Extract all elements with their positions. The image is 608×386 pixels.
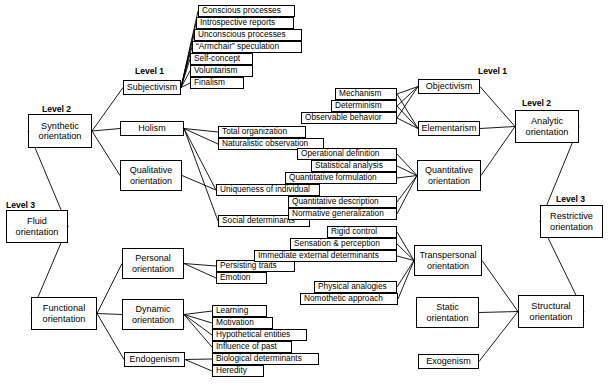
level-label-lvl-right-3: Level 3 [556,194,585,204]
node-exogenism[interactable]: Exogenism [418,354,479,369]
level-label-lvl-right-2: Level 2 [522,98,551,108]
node-functional-orientation[interactable]: Functionalorientation [31,297,97,330]
node-finalism[interactable]: Finalism [190,77,244,89]
edge-functional-orientation-to-endogenism [97,314,124,360]
edge-synthetic-orientation-to-qualitative-orientation [92,131,120,176]
edge-determinism-to-objectivism [397,87,418,107]
node-influence-of-past[interactable]: Influence of past [212,341,292,353]
node-emotion[interactable]: Emotion [216,272,267,284]
edge-nomothetic-approach-to-transpersonal-orientation [398,261,414,300]
edge-static-orientation-to-structural-orientation [479,312,518,313]
node-subjectivism[interactable]: Subjectivism [123,80,181,95]
edge-dynamic-orientation-to-influence-of-past [184,315,212,348]
edge-quantitative-formulation-to-quantitative-orientation [397,176,417,179]
node-heredity[interactable]: Heredity [212,365,264,377]
node-hypothetical-entities[interactable]: Hypothetical entities [212,329,307,341]
node-learning[interactable]: Learning [212,305,267,317]
edge-holism-to-social-determinants [184,129,218,222]
node-holism[interactable]: Holism [120,121,184,136]
node-structural-orientation[interactable]: Structuralorientation [518,295,584,328]
node-transpersonal-orientation[interactable]: Transpersonalorientation [414,245,482,276]
node-restrictive-orientation[interactable]: Restrictiveorientation [540,205,603,238]
edge-transpersonal-orientation-to-structural-orientation [482,261,518,312]
node-statistical-analysis[interactable]: Statistical analysis [311,160,397,172]
node-observable-behavior[interactable]: Observable behavior [301,112,397,124]
edge-normative-generalization-to-quantitative-orientation [397,176,417,215]
level-label-lvl-left-3: Level 3 [6,200,35,210]
node-personal-orientation[interactable]: Personalorientation [122,248,184,279]
node-rigid-control[interactable]: Rigid control [327,226,397,238]
node-quantitative-orientation[interactable]: Quantitativeorientation [417,160,481,191]
edge-quantitative-orientation-to-analytic-orientation [481,127,515,176]
node-quantitative-formulation[interactable]: Quantitative formulation [285,172,397,184]
node-objectivism[interactable]: Objectivism [418,79,480,94]
node-quantitative-description[interactable]: Quantitative description [288,196,397,208]
edge-physical-analogies-to-transpersonal-orientation [397,261,414,288]
node-static-orientation[interactable]: Staticorientation [416,297,479,328]
node-qualitative-orientation[interactable]: Qualitativeorientation [120,160,182,191]
edge-exogenism-to-structural-orientation [479,312,518,362]
node-introspective-reports[interactable]: Introspective reports [196,17,294,29]
node-self-concept[interactable]: Self-concept [190,53,253,65]
diagram-canvas: SyntheticorientationFluidorientationFunc… [0,0,608,386]
edge-objectivism-to-analytic-orientation [480,87,515,127]
node-analytic-orientation[interactable]: Analyticorientation [515,110,579,143]
level-label-lvl-left-1: Level 1 [135,66,164,76]
edge-holism-to-total-organization [184,129,218,133]
node-sensation-perception[interactable]: Sensation & perception [290,238,397,250]
node-immediate-external-determinants[interactable]: Immediate external determinants [254,250,397,262]
node-synthetic-orientation[interactable]: Syntheticorientation [28,114,92,148]
edge-synthetic-orientation-to-subjectivism [92,88,123,132]
node-biological-determinants[interactable]: Biological determinants [212,353,319,365]
node-conscious-processes[interactable]: Conscious processes [198,5,295,17]
edge-elementarism-to-analytic-orientation [480,127,515,129]
node-physical-analogies[interactable]: Physical analogies [314,281,397,293]
node-motivation[interactable]: Motivation [212,317,273,329]
edge-functional-orientation-to-personal-orientation [97,264,122,314]
node-uniqueness-of-individual[interactable]: Uniqueness of individual [216,184,320,196]
edge-determinism-to-elementarism [397,106,418,129]
node-dynamic-orientation[interactable]: Dynamicorientation [122,299,184,330]
edge-synthetic-orientation-to-holism [92,129,120,132]
edge-mechanism-to-objectivism [397,87,418,95]
node-endogenism[interactable]: Endogenism [124,352,185,367]
node-total-organization[interactable]: Total organization [218,126,306,138]
level-label-lvl-right-1: Level 1 [478,66,507,76]
node-mechanism[interactable]: Mechanism [335,88,397,100]
node-voluntarism[interactable]: Voluntarism [190,65,253,77]
edge-endogenism-to-heredity [185,360,212,372]
node-normative-generalization[interactable]: Normative generalization [288,208,397,220]
edge-dynamic-orientation-to-hypothetical-entities [184,315,212,336]
level-label-lvl-left-2: Level 2 [42,104,71,114]
edge-endogenism-to-biological-determinants [185,359,212,360]
edge-qualitative-orientation-to-uniqueness-of-individual [182,176,216,191]
edge-statistical-analysis-to-quantitative-orientation [397,166,417,176]
node-unconscious-processes[interactable]: Unconscious processes [194,29,302,41]
node-armchair-speculation[interactable]: “Armchair” speculation [192,41,302,53]
node-operational-definition[interactable]: Operational definition [297,148,397,160]
edge-dynamic-orientation-to-learning [184,311,212,315]
node-fluid-orientation[interactable]: Fluidorientation [6,210,68,243]
node-determinism[interactable]: Determinism [331,100,397,112]
node-nomothetic-approach[interactable]: Nomothetic approach [300,293,398,305]
edge-holism-to-uniqueness-of-individual [184,129,216,191]
edge-operational-definition-to-quantitative-orientation [397,154,417,176]
edge-quantitative-description-to-quantitative-orientation [397,176,417,203]
edge-functional-orientation-to-dynamic-orientation [97,314,122,315]
node-elementarism[interactable]: Elementarism [418,121,480,136]
edge-observable-behavior-to-objectivism [397,87,418,119]
